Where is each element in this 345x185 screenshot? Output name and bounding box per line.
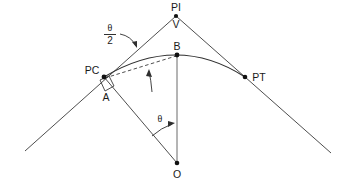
horizontal-curve-diagram: PI V B PC PT A O θ 2 θ <box>0 0 345 185</box>
point-dot-pc <box>102 75 107 80</box>
point-label-b: B <box>173 40 180 52</box>
central-angle-label: θ <box>158 113 163 124</box>
half-delta-denominator-label: 2 <box>107 35 113 46</box>
point-label-v: V <box>172 18 179 30</box>
point-dot-pt <box>243 75 248 80</box>
back-tangent-line <box>25 16 176 151</box>
point-label-pc: PC <box>85 64 100 76</box>
point-dot-o <box>175 161 180 166</box>
central-angle-arc-head <box>168 121 175 127</box>
point-label-a: A <box>102 91 109 103</box>
leader-arrow-to-back-tangent <box>120 34 136 46</box>
leader-arrow-to-back-tangent-head <box>132 41 137 48</box>
point-label-o: O <box>173 168 181 180</box>
forward-tangent-line <box>176 16 331 153</box>
leader-arrow-to-chord-head <box>146 69 152 77</box>
diagram-canvas: PI V B PC PT A O θ 2 θ <box>0 0 345 185</box>
point-label-pi: PI <box>171 1 181 13</box>
point-label-pt: PT <box>252 71 266 83</box>
dashed-chord-pc-to-b <box>105 56 176 78</box>
radius-line-pc-to-o <box>104 77 177 163</box>
half-delta-numerator-label: θ <box>108 22 113 33</box>
point-dot-b <box>175 53 180 58</box>
